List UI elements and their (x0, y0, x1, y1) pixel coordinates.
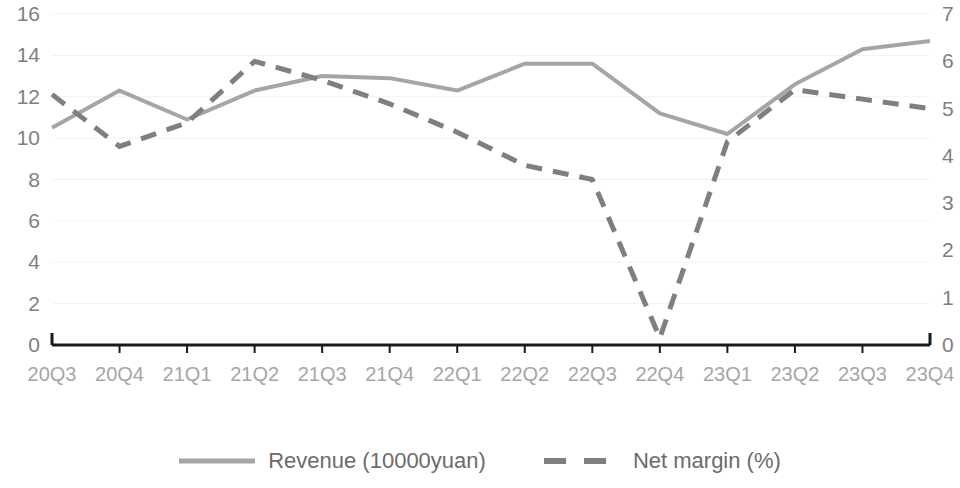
y-axis-right-tick-label: 6 (942, 50, 960, 71)
y-axis-left-tick-label: 6 (0, 210, 40, 231)
y-axis-left-tick-label: 2 (0, 293, 40, 314)
data-series-group (52, 41, 930, 338)
y-axis-left-tick-label: 4 (0, 251, 40, 272)
y-axis-left-tick-label: 12 (0, 86, 40, 107)
legend-item-2[interactable]: Net margin (%) (544, 448, 781, 474)
y-axis-right-tick-label: 4 (942, 145, 960, 166)
y-axis-left-tick-label: 14 (0, 44, 40, 65)
legend-label: Net margin (%) (633, 448, 781, 474)
axis-lines (52, 333, 930, 353)
y-axis-left-tick-label: 8 (0, 169, 40, 190)
y-axis-left-tick-label: 0 (0, 334, 40, 355)
y-axis-left-tick-label: 10 (0, 127, 40, 148)
legend-dashed-line-icon (544, 455, 620, 467)
chart-plot-area (0, 0, 960, 488)
chart-container: 1614121086420 76543210 20Q320Q421Q121Q22… (0, 0, 960, 488)
series-line-1 (52, 41, 930, 134)
series-line-2 (52, 61, 930, 338)
gridlines (52, 14, 930, 304)
y-axis-right-tick-label: 5 (942, 98, 960, 119)
y-axis-right-tick-label: 0 (942, 334, 960, 355)
y-axis-right-tick-label: 2 (942, 239, 960, 260)
legend-label: Revenue (10000yuan) (268, 448, 486, 474)
y-axis-right-tick-label: 7 (942, 3, 960, 24)
y-axis-right-tick-label: 3 (942, 192, 960, 213)
legend-item-1[interactable]: Revenue (10000yuan) (179, 448, 486, 474)
x-axis-label-23q4: 23Q4 (880, 364, 960, 384)
y-axis-left-tick-label: 16 (0, 3, 40, 24)
y-axis-right-tick-label: 1 (942, 287, 960, 308)
legend-solid-line-icon (179, 455, 255, 467)
chart-legend: Revenue (10000yuan)Net margin (%) (0, 448, 960, 474)
